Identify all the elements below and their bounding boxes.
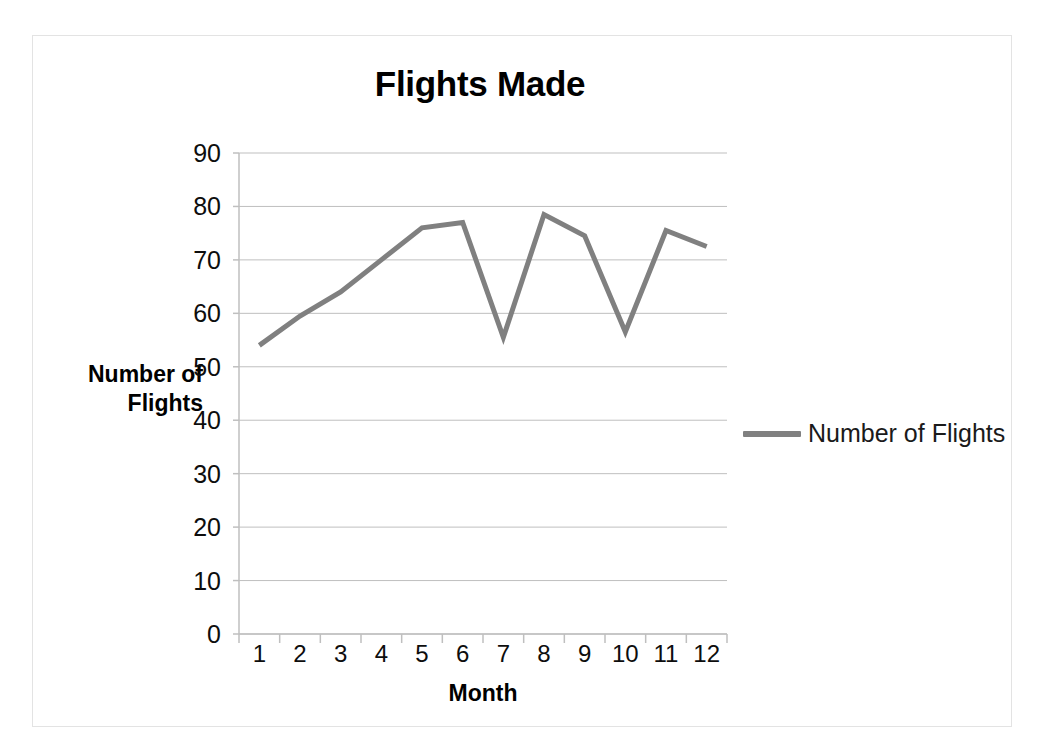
chart-title: Flights Made bbox=[33, 64, 1011, 104]
axis-ticks bbox=[233, 153, 727, 643]
axis-lines bbox=[239, 153, 727, 634]
plot-area bbox=[239, 153, 727, 634]
y-axis-tick-label: 60 bbox=[175, 299, 221, 328]
y-axis-tick-label: 50 bbox=[175, 352, 221, 381]
x-axis-tick-label: 10 bbox=[612, 640, 639, 668]
gridlines bbox=[239, 153, 727, 634]
chart-legend: Number of Flights bbox=[743, 419, 1005, 448]
y-axis-tick-label: 10 bbox=[175, 566, 221, 595]
y-axis-tick-label: 40 bbox=[175, 406, 221, 435]
legend-label: Number of Flights bbox=[808, 419, 1005, 448]
x-axis-tick-label: 11 bbox=[654, 640, 679, 668]
y-axis-tick-label: 0 bbox=[175, 620, 221, 649]
chart-plot-svg bbox=[239, 153, 727, 634]
x-axis-title-text: Month bbox=[449, 680, 518, 706]
chart-title-text: Flights Made bbox=[375, 64, 585, 104]
x-axis-tick-label: 4 bbox=[375, 640, 388, 668]
x-axis-tick-label: 1 bbox=[253, 640, 266, 668]
x-axis-tick-label: 2 bbox=[293, 640, 306, 668]
y-axis-tick-label: 70 bbox=[175, 245, 221, 274]
x-axis-tick-label: 3 bbox=[334, 640, 347, 668]
chart-container: Flights Made Number of Flights 010203040… bbox=[32, 35, 1012, 727]
x-axis-tick-label: 5 bbox=[415, 640, 428, 668]
x-axis-tick-label: 8 bbox=[537, 640, 550, 668]
y-axis-tick-label: 30 bbox=[175, 459, 221, 488]
y-axis-tick-label: 80 bbox=[175, 192, 221, 221]
x-axis-tick-label: 7 bbox=[497, 640, 510, 668]
legend-line-swatch bbox=[743, 431, 801, 437]
x-axis-title: Month bbox=[239, 680, 727, 707]
x-axis-tick-label: 6 bbox=[456, 640, 469, 668]
y-axis-tick-label: 90 bbox=[175, 139, 221, 168]
x-axis-tick-label: 9 bbox=[578, 640, 591, 668]
y-axis-tick-label: 20 bbox=[175, 513, 221, 542]
x-axis-tick-labels: 123456789101112 bbox=[239, 640, 727, 674]
x-axis-tick-label: 12 bbox=[693, 640, 720, 668]
data-series-group bbox=[259, 214, 706, 345]
y-axis-tick-labels: 0102030405060708090 bbox=[175, 153, 221, 634]
